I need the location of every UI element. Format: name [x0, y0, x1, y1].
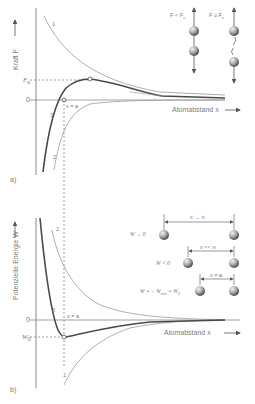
sphere-icon: [229, 258, 239, 268]
curve-2-label-a: 2: [53, 154, 56, 160]
atomic-force-energy-diagram: Fs 0 x = a 1 2 3 Atomabstand x Kraft F a…: [0, 0, 255, 404]
x-equals-a-label-a: x = a: [66, 103, 79, 109]
broken-bond-icon: [233, 37, 236, 45]
panel-b-caption: b): [10, 386, 16, 394]
curve-3-label-a: 3: [50, 112, 53, 118]
x-axis-label-a: Atomabstand x: [172, 106, 219, 113]
state-label: W < 0: [156, 260, 170, 266]
sphere-icon: [189, 26, 199, 36]
state-label: W = − Wmin = W0: [140, 288, 180, 296]
zero-tick-b: 0: [26, 316, 30, 323]
energy-inset: x → ∞ W → 0 x << ∞ W < 0 x = a W = − Wmi…: [130, 214, 239, 296]
distance-label: x << ∞: [200, 244, 216, 250]
y-axis-label-b: Potenzielle Energie W: [12, 231, 20, 300]
curve-2-label-b: 2: [56, 226, 59, 232]
fs-max-point: [88, 77, 92, 81]
sphere-icon: [229, 230, 239, 240]
broken-bond-icon: [232, 48, 234, 55]
sphere-icon: [229, 286, 239, 296]
distance-label: x = a: [210, 272, 223, 278]
panel-a-force: Fs 0 x = a 1 2 3 Atomabstand x Kraft F a…: [10, 8, 240, 368]
sphere-icon: [159, 230, 169, 240]
inset-left-label: F < Fs: [170, 12, 185, 20]
state-label: W → 0: [130, 231, 146, 237]
sphere-icon: [229, 26, 239, 36]
distance-label: x → ∞: [190, 214, 205, 220]
x-equals-a-label-b: x = a: [67, 313, 80, 319]
energy-minimum-point: [62, 335, 66, 339]
inset-right-label: F ≥ Fs: [209, 12, 224, 20]
zero-tick-a: 0: [26, 96, 30, 103]
curve-1-label-a: 1: [52, 21, 55, 27]
sphere-icon: [183, 258, 193, 268]
panel-b-energy: W0 0 x = a 1 2 3 Atomabstand x Potenziel…: [10, 214, 240, 394]
sphere-icon: [229, 57, 239, 67]
curve-3: [43, 79, 225, 172]
x-axis-label-b: Atomabstand x: [164, 329, 211, 336]
w0-tick: W0: [22, 333, 31, 342]
force-inset: F < Fs F ≥ Fs: [170, 8, 239, 83]
y-axis-label-a: Kraft F: [12, 49, 19, 70]
panel-a-caption: a): [10, 176, 16, 184]
sphere-icon: [195, 286, 205, 296]
fs-tick: Fs: [22, 76, 30, 85]
sphere-icon: [189, 46, 199, 56]
curve-1-label-b: 1: [63, 372, 66, 378]
curve-3-label-b: 3: [52, 307, 55, 313]
